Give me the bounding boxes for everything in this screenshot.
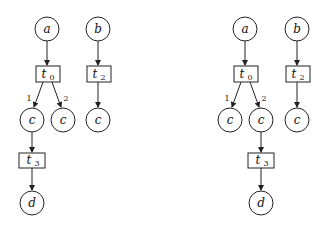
transition-label: t <box>292 67 297 81</box>
place-label: d <box>28 196 36 210</box>
arc-label-1: 1 <box>224 94 229 103</box>
arc-t0-c2 <box>52 82 61 107</box>
arc-t0-c1 <box>34 82 43 107</box>
place-label: c <box>29 113 36 127</box>
petri-net-diagrams: a b c c c d t 0 t 2 <box>0 0 330 229</box>
transition-label: t <box>93 67 98 81</box>
place-d: d <box>249 191 273 215</box>
place-label: c <box>258 113 265 127</box>
place-c3: c <box>86 108 110 132</box>
place-label: c <box>294 113 301 127</box>
arc-label-2: 2 <box>63 94 68 103</box>
transition-subscript: 0 <box>49 73 54 82</box>
transition-subscript: 2 <box>299 73 304 82</box>
place-label: d <box>257 196 265 210</box>
place-label: b <box>94 22 102 36</box>
transition-label: t <box>42 67 47 81</box>
transition-subscript: 2 <box>100 73 105 82</box>
transition-label: t <box>256 153 261 167</box>
transition-t3: t 3 <box>19 153 45 168</box>
transition-subscript: 0 <box>247 73 252 82</box>
transition-t3: t 3 <box>248 153 274 168</box>
place-c2: c <box>249 108 273 132</box>
transition-t0: t 0 <box>234 66 258 82</box>
transition-subscript: 3 <box>34 159 39 168</box>
transition-label: t <box>240 67 245 81</box>
place-label: c <box>95 113 102 127</box>
place-label: a <box>241 22 248 36</box>
arc-label-2: 2 <box>261 94 266 103</box>
place-b: b <box>285 17 309 41</box>
place-c1: c <box>20 108 44 132</box>
place-label: b <box>293 22 301 36</box>
right-net: a b c c c d t 0 t 2 <box>218 17 310 215</box>
place-c1: c <box>218 108 242 132</box>
place-label: c <box>227 113 234 127</box>
arc-t0-c2 <box>250 82 259 107</box>
arc-label-1: 1 <box>26 94 31 103</box>
transition-t2: t 2 <box>286 66 310 82</box>
place-a: a <box>233 17 257 41</box>
place-c3: c <box>285 108 309 132</box>
place-a: a <box>35 17 59 41</box>
place-b: b <box>86 17 110 41</box>
place-label: a <box>43 22 50 36</box>
place-label: c <box>60 113 67 127</box>
transition-t0: t 0 <box>36 66 60 82</box>
left-net: a b c c c d t 0 t 2 <box>19 17 111 215</box>
transition-subscript: 3 <box>263 159 268 168</box>
transition-label: t <box>27 153 32 167</box>
arc-t0-c1 <box>232 82 241 107</box>
transition-t2: t 2 <box>87 66 111 82</box>
place-c2: c <box>51 108 75 132</box>
place-d: d <box>20 191 44 215</box>
